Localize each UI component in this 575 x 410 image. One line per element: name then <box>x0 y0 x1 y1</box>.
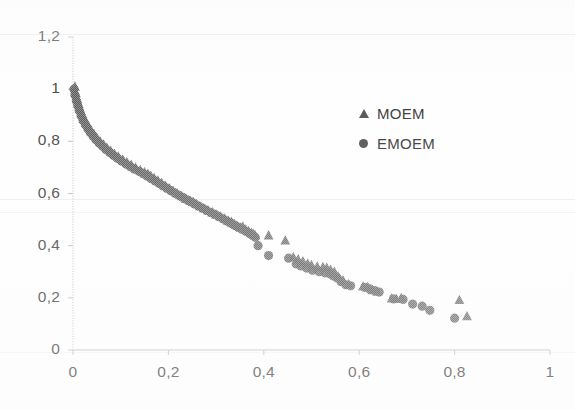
data-point <box>375 287 384 296</box>
data-point <box>408 299 417 308</box>
x-tick-label: 0,2 <box>148 363 188 381</box>
x-tick-label: 0,6 <box>339 363 379 381</box>
data-point <box>253 241 262 250</box>
data-point <box>284 254 293 263</box>
y-tick-label: 0,2 <box>8 288 60 306</box>
x-tick-label: 0 <box>53 363 93 381</box>
y-tick-label: 0 <box>8 340 60 358</box>
legend-item-emoem[interactable]: EMOEM <box>356 128 476 158</box>
y-tick-label: 0,4 <box>8 236 60 254</box>
axes <box>68 37 550 355</box>
data-point <box>454 295 464 304</box>
legend-label-moem: MOEM <box>377 105 425 122</box>
chart-container: 00,20,40,60,811,2 00,20,40,60,81 MOEM EM… <box>0 0 575 410</box>
data-point <box>346 281 355 290</box>
legend-label-emoem: EMOEM <box>377 135 435 152</box>
data-point <box>389 294 398 303</box>
chart-legend: MOEM EMOEM <box>356 98 476 158</box>
data-point <box>450 314 459 323</box>
data-point <box>462 311 472 320</box>
data-point <box>425 306 434 315</box>
data-point <box>280 235 290 244</box>
x-tick-label: 0,4 <box>244 363 284 381</box>
data-point <box>264 230 274 239</box>
circle-icon <box>356 135 372 151</box>
y-tick-label: 0,8 <box>8 131 60 149</box>
y-tick-label: 0,6 <box>8 184 60 202</box>
data-point <box>251 233 260 242</box>
x-tick-label: 0,8 <box>435 363 475 381</box>
x-tick-label: 1 <box>530 363 570 381</box>
scatter-plot <box>0 0 575 410</box>
legend-item-moem[interactable]: MOEM <box>356 98 476 128</box>
y-tick-label: 1 <box>8 79 60 97</box>
data-point <box>264 251 273 260</box>
y-tick-label: 1,2 <box>8 27 60 45</box>
data-point <box>398 295 407 304</box>
triangle-icon <box>356 105 372 121</box>
